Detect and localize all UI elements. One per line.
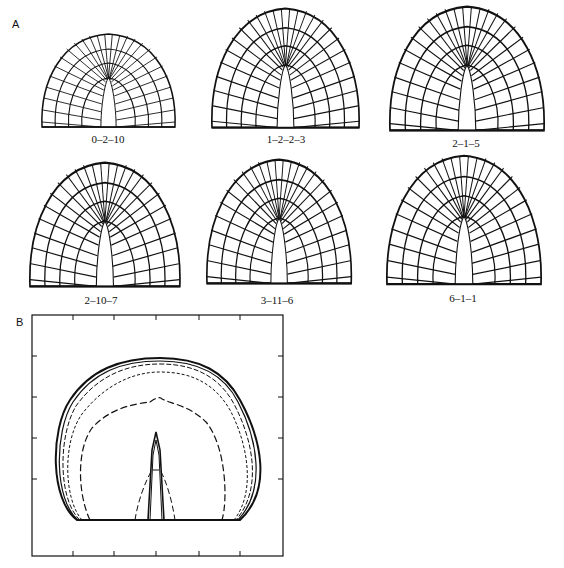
caption-1-2-2-3: 1–2–2–3 — [236, 133, 336, 145]
caption-0-2-10: 0–2–10 — [58, 133, 158, 145]
mesh-6-1-1 — [387, 156, 541, 284]
caption-2-1-5: 2–1–5 — [416, 137, 516, 149]
figure-graphics — [0, 0, 564, 568]
caption-2-10-7: 2–10–7 — [51, 294, 151, 306]
mesh-3-11-6 — [207, 160, 351, 284]
caption-3-11-6: 3–11–6 — [227, 294, 327, 306]
mesh-2-10-7 — [30, 163, 180, 287]
mesh-1-2-2-3 — [212, 9, 359, 128]
panel-b-letter: B — [16, 316, 23, 328]
caption-6-1-1: 6–1–1 — [413, 292, 513, 304]
mesh-0-2-10 — [42, 34, 175, 127]
mesh-2-1-5 — [390, 7, 544, 131]
